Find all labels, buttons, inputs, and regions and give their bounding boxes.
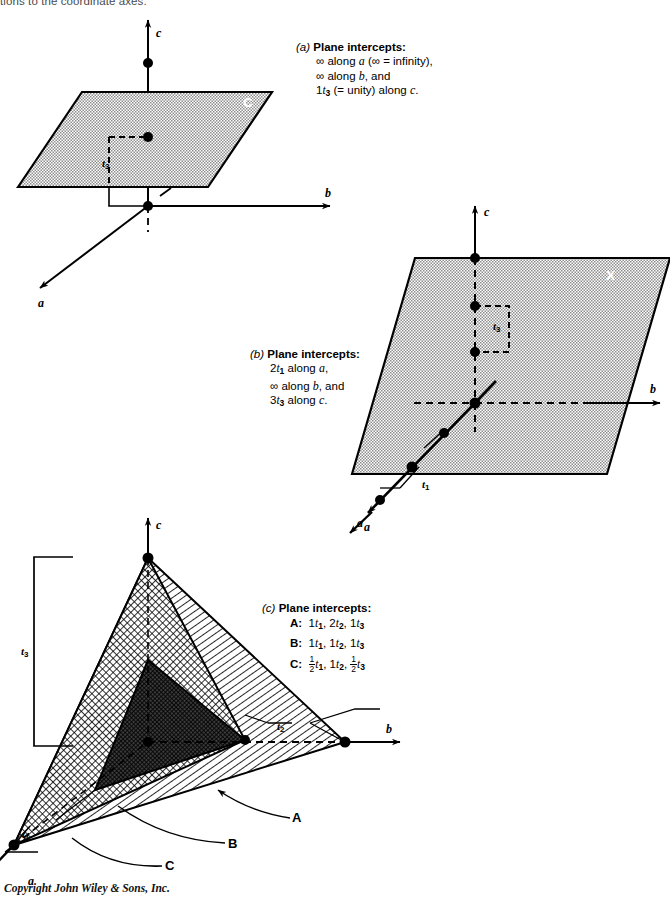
panel-b-t3-label: t3 xyxy=(493,320,501,334)
panel-c-diagram xyxy=(0,512,400,880)
copyright-line: Copyright John Wiley & Sons, Inc. xyxy=(4,882,170,894)
caption-panel-b: (b) Plane intercepts: 2t1 along a, ∞ alo… xyxy=(250,347,360,411)
caption-b-heading: Plane intercepts: xyxy=(267,348,360,360)
caption-panel-c: (c) Plane intercepts: A: 1t1, 2t2, 1t3 B… xyxy=(262,601,371,676)
figure-linework xyxy=(0,0,670,905)
caption-b-line-2: ∞ along b, and xyxy=(270,379,360,393)
panel-a-t3-label: t3 xyxy=(102,157,110,171)
caption-a-line-1: ∞ along a (∞ = infinity), xyxy=(316,54,433,68)
panel-c-t2-label: t2 xyxy=(277,720,285,734)
panel-b-axis-c-label: c xyxy=(484,205,489,220)
caption-c-row-c: C: 12t1, 1t2, 12t3 xyxy=(290,655,371,676)
panel-c-axis-a-top-label: a xyxy=(364,520,370,535)
panel-b-axis-a-label: a xyxy=(357,516,363,531)
caption-c-tag: (c) xyxy=(262,602,275,614)
caption-c-row-b-name: B: xyxy=(290,637,302,649)
caption-c-row-b: B: 1t1, 1t2, 1t3 xyxy=(290,635,371,655)
figure-crystal-plane-intercepts: tions to the coordinate axes. xyxy=(0,0,670,905)
panel-c-t1-label: t1 xyxy=(22,828,30,842)
panel-c-plane-label-b: B xyxy=(228,836,237,851)
caption-c-heading: Plane intercepts: xyxy=(279,602,372,614)
panel-c-plane-label-c: C xyxy=(165,858,174,873)
panel-a-axis-c-label: c xyxy=(156,26,161,41)
caption-b-tag: (b) xyxy=(250,348,264,360)
caption-a-heading: Plane intercepts: xyxy=(313,41,406,53)
panel-c-t3-label: t3 xyxy=(21,645,29,659)
caption-a-tag: (a) xyxy=(296,41,310,53)
caption-c-row-c-name: C: xyxy=(290,658,302,670)
panel-c-plane-label-a: A xyxy=(292,810,301,825)
caption-c-row-a: A: 1t1, 2t2, 1t3 xyxy=(290,615,371,635)
panel-a-diagram xyxy=(18,20,330,288)
panel-a-plane-label: C xyxy=(243,95,253,110)
panel-b-plane-label: X xyxy=(606,268,615,283)
panel-a-axis-a-label: a xyxy=(38,296,44,311)
caption-b-line-3: 3t3 along c. xyxy=(270,393,360,410)
caption-a-line-2: ∞ along b, and xyxy=(316,69,433,83)
caption-a-line-3: 1t3 (= unity) along c. xyxy=(316,83,433,100)
panel-c-axis-b-label: b xyxy=(386,722,392,737)
caption-c-row-a-name: A: xyxy=(290,617,302,629)
panel-b-t1-label: t1 xyxy=(422,478,430,492)
panel-b-axis-b-label: b xyxy=(650,382,656,397)
caption-b-line-1: 2t1 along a, xyxy=(270,361,360,378)
caption-panel-a: (a) Plane intercepts: ∞ along a (∞ = inf… xyxy=(296,40,433,101)
panel-a-axis-b-label: b xyxy=(325,186,331,201)
panel-c-axis-c-label: c xyxy=(156,518,161,533)
panel-b-diagram xyxy=(352,206,670,513)
